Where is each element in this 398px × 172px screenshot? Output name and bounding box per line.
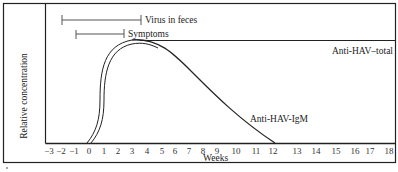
- stray-mark: [6, 167, 8, 169]
- x-tick-label: −1: [69, 146, 79, 156]
- x-tick-label: 2: [116, 146, 121, 156]
- x-tick-label: −3: [44, 146, 54, 156]
- symptoms-label: Symptoms: [128, 29, 169, 39]
- x-tick-label: 4: [145, 146, 150, 156]
- x-tick-label: 15: [332, 146, 342, 156]
- anti-hav-igm-rise: [91, 43, 158, 143]
- virus-label: Virus in feces: [145, 15, 197, 25]
- outer-frame: [4, 4, 396, 163]
- x-tick-label: 17: [366, 146, 376, 156]
- anti-hav-total-curve: [87, 40, 150, 143]
- x-tick-label: 10: [232, 146, 242, 156]
- symptoms-interval: Symptoms: [76, 29, 169, 39]
- x-tick-label: 12: [269, 146, 278, 156]
- x-tick-label: 5: [160, 146, 165, 156]
- x-tick-label: 7: [187, 146, 192, 156]
- virus-interval: Virus in feces: [62, 15, 197, 25]
- x-tick-label: −2: [56, 146, 66, 156]
- anti-hav-igm-label: Anti-HAV-IgM: [250, 114, 309, 124]
- x-axis-label: Weeks: [203, 153, 228, 163]
- x-tick-label: 0: [87, 146, 92, 156]
- x-tick-label: 1: [102, 146, 107, 156]
- anti-hav-total-label: Anti-HAV–total: [332, 46, 393, 56]
- x-tick-label: 18: [385, 146, 395, 156]
- hav-chart: Relative concentration Virus in feces Sy…: [0, 0, 398, 172]
- x-tick-label: 13: [293, 146, 303, 156]
- x-tick-label: 11: [252, 146, 261, 156]
- x-tick-label: 6: [173, 146, 178, 156]
- x-tick-label: 16: [351, 146, 361, 156]
- x-tick-label: 14: [312, 146, 322, 156]
- anti-hav-igm-curve: [132, 40, 275, 143]
- x-tick-label: 3: [130, 146, 135, 156]
- y-axis-label: Relative concentration: [19, 53, 29, 139]
